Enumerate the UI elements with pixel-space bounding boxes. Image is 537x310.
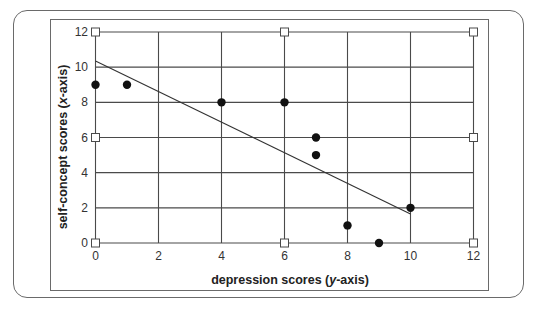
y-tick-label: 4	[81, 166, 88, 180]
data-point	[280, 98, 288, 106]
square-marker-icon	[281, 239, 289, 247]
x-tick-label: 4	[218, 249, 225, 263]
scatter-plot: 024681012 024681012	[0, 0, 537, 310]
data-point	[123, 81, 131, 89]
data-point	[312, 151, 320, 159]
x-tick-label: 2	[155, 249, 162, 263]
x-axis-label: depression scores (y-axis)	[211, 273, 369, 287]
data-point	[343, 221, 351, 229]
square-marker-icon	[92, 28, 100, 36]
x-tick-labels: 024681012	[92, 249, 480, 263]
data-point	[217, 98, 225, 106]
square-marker-icon	[281, 28, 289, 36]
grid-lines	[96, 32, 474, 243]
square-marker-icon	[470, 134, 478, 142]
x-tick-label: 12	[467, 249, 481, 263]
data-point	[375, 239, 383, 247]
x-tick-label: 6	[281, 249, 288, 263]
y-tick-label: 8	[81, 95, 88, 109]
y-tick-label: 10	[75, 60, 89, 74]
data-point	[312, 133, 320, 141]
data-point	[406, 204, 414, 212]
square-marker-icon	[92, 134, 100, 142]
y-tick-label: 6	[81, 131, 88, 145]
square-marker-icon	[92, 239, 100, 247]
y-tick-label: 12	[75, 25, 89, 39]
data-points	[91, 81, 414, 248]
y-tick-label: 0	[81, 236, 88, 250]
y-axis-label: self-concept scores (x-axis)	[56, 65, 70, 230]
y-tick-label: 2	[81, 201, 88, 215]
x-tick-label: 0	[92, 249, 99, 263]
x-tick-label: 8	[344, 249, 351, 263]
square-marker-icon	[470, 239, 478, 247]
x-tick-label: 10	[404, 249, 418, 263]
data-point	[91, 81, 99, 89]
square-marker-icon	[470, 28, 478, 36]
y-tick-labels: 024681012	[75, 25, 89, 250]
